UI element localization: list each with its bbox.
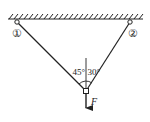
angle-right-label: 30° (88, 67, 101, 77)
ceiling-hatching (9, 14, 143, 19)
angle-left-label: 45° (72, 67, 85, 77)
ceiling (8, 14, 143, 19)
rope-2 (86, 22, 130, 91)
node-1-label: ① (12, 27, 22, 39)
rope-1 (17, 22, 86, 91)
hinge-1-icon (15, 20, 19, 24)
statics-diagram: ① ② 45° 30° F (0, 0, 150, 122)
joint-knot-icon (84, 89, 89, 94)
force-label: F (90, 96, 98, 107)
hinge-2-icon (128, 20, 132, 24)
node-2-label: ② (128, 27, 138, 39)
